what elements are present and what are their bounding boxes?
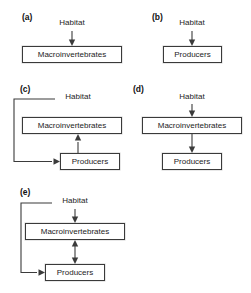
panel-b-habitat-label: Habitat: [172, 18, 212, 28]
panel-d-macroinvertebrates-label: Macroinvertebrates: [143, 121, 241, 131]
panel-c-producers-label: Producers: [61, 157, 119, 167]
arrow-e-macroinvertebrates-producers-bidirectional: [72, 240, 78, 264]
panel-a-habitat-label: Habitat: [52, 18, 92, 28]
figure-canvas: (a) Habitat Macroinvertebrates (b) Habit…: [0, 0, 251, 293]
panel-d-producers-box: Producers: [162, 153, 222, 170]
panel-e-habitat-label: Habitat: [55, 196, 95, 206]
panel-c-macroinvertebrates-label: Macroinvertebrates: [23, 121, 121, 131]
arrow-c-producers-to-macroinvertebrates: [75, 134, 81, 153]
panel-a-macroinvertebrates-label: Macroinvertebrates: [23, 50, 121, 60]
panel-d-label: (d): [133, 84, 144, 94]
panel-e-macroinvertebrates-box: Macroinvertebrates: [25, 223, 125, 240]
panel-c-producers-box: Producers: [60, 153, 120, 170]
arrow-d-macroinvertebrates-to-producers: [189, 134, 195, 153]
panel-d-macroinvertebrates-box: Macroinvertebrates: [142, 117, 242, 134]
panel-c-macroinvertebrates-box: Macroinvertebrates: [22, 117, 122, 134]
panel-e-macroinvertebrates-label: Macroinvertebrates: [26, 227, 124, 237]
panel-c-habitat-label: Habitat: [58, 92, 98, 102]
panel-d-habitat-label: Habitat: [172, 92, 212, 102]
arrow-b-habitat-to-producers: [189, 31, 195, 46]
panel-d-producers-label: Producers: [163, 157, 221, 167]
panel-a-label: (a): [22, 12, 32, 22]
arrow-e-habitat-to-macroinvertebrates: [72, 209, 78, 223]
connector-layer: [0, 0, 251, 293]
panel-b-label: (b): [152, 12, 163, 22]
panel-b-producers-box: Producers: [163, 46, 222, 63]
panel-e-producers-label: Producers: [46, 268, 104, 278]
panel-a-macroinvertebrates-box: Macroinvertebrates: [22, 46, 122, 63]
panel-c-label: (c): [20, 84, 30, 94]
panel-e-label: (e): [20, 187, 30, 197]
panel-b-producers-label: Producers: [164, 50, 221, 60]
arrow-a-habitat-to-macroinvertebrates: [69, 31, 75, 46]
arrow-d-habitat-to-macroinvertebrates: [189, 104, 195, 117]
panel-e-producers-box: Producers: [45, 264, 105, 281]
